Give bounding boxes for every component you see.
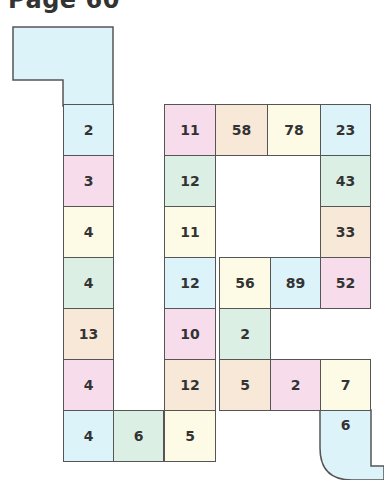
board-cell: 10	[164, 308, 216, 360]
board-cell: 33	[320, 206, 371, 258]
board-cell: 56	[219, 257, 271, 309]
board-cell: 23	[320, 104, 371, 156]
board-cell: 4	[63, 410, 114, 462]
board-cell: 12	[164, 155, 216, 207]
board-cell: 4	[63, 257, 114, 309]
board-cell: 43	[320, 155, 371, 207]
board-cell: 11	[164, 104, 216, 156]
board-cell: 2	[270, 359, 321, 411]
board-cell: 13	[63, 308, 114, 360]
board-cell: 2	[63, 104, 114, 156]
board-cell: 12	[164, 359, 216, 411]
board-cell: 2	[219, 308, 271, 360]
board-cell: 5	[164, 410, 216, 462]
board-cell: 58	[215, 104, 268, 156]
board-cell: 5	[219, 359, 271, 411]
board-cell: 4	[63, 206, 114, 258]
board-cell: 6	[113, 410, 164, 462]
board-cell: 52	[320, 257, 371, 309]
board-cell: 7	[320, 359, 371, 411]
board-cell: 12	[164, 257, 216, 309]
board-cell: 11	[164, 206, 216, 258]
board-cell: 89	[270, 257, 321, 309]
board-cell: 3	[63, 155, 114, 207]
board-cell: 78	[267, 104, 321, 156]
board-cell: 4	[63, 359, 114, 411]
board-cell: 6	[320, 410, 371, 440]
